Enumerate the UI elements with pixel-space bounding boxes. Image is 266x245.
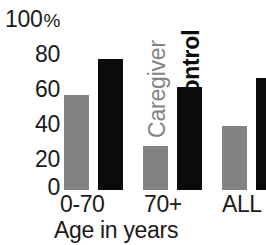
bar-control-0-70 — [98, 59, 123, 190]
bar-caregiver-0-70 — [64, 95, 89, 190]
legend-label-control: Control — [180, 30, 203, 110]
bar-chart: 100% 80 60 40 20 0 Caregiver Control 0-7… — [0, 0, 266, 245]
bar-caregiver-70plus — [143, 146, 168, 190]
bar-caregiver-all — [222, 126, 247, 190]
legend-label-caregiver: Caregiver — [146, 40, 169, 138]
x-axis-tick-0-70: 0-70 — [60, 192, 104, 217]
x-axis-title: Age in years — [0, 217, 232, 243]
x-axis-tick-all: ALL — [222, 192, 262, 217]
bar-control-all — [256, 78, 266, 190]
x-axis-tick-70plus: 70+ — [144, 192, 182, 217]
